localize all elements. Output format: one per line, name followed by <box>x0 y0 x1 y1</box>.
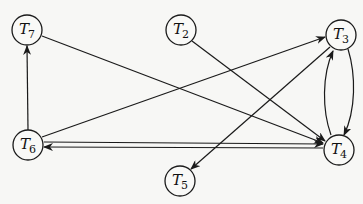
edge-t4-to-t6 <box>44 147 323 148</box>
edge-t3-to-t4 <box>344 49 354 135</box>
node-t4: T 4 <box>324 135 354 165</box>
edge-t6-to-t7 <box>27 46 28 130</box>
node-t3: T 3 <box>326 20 356 50</box>
svg-text:4: 4 <box>340 148 347 161</box>
node-t7: T 7 <box>12 15 42 45</box>
svg-text:2: 2 <box>182 28 189 41</box>
svg-text:3: 3 <box>342 33 349 46</box>
edges <box>27 36 354 169</box>
node-t6: T 6 <box>13 130 43 160</box>
svg-text:6: 6 <box>29 143 36 156</box>
edge-t4-to-t3 <box>324 51 333 135</box>
edge-t2-to-t4 <box>192 41 325 141</box>
edge-t3-to-t5 <box>191 47 330 169</box>
node-t5: T 5 <box>165 166 195 196</box>
svg-text:7: 7 <box>28 28 35 41</box>
edge-t6-to-t4 <box>44 142 323 144</box>
node-t2: T 2 <box>166 15 196 45</box>
task-dependency-graph: T 7 T 2 T 3 T 6 T 4 T 5 <box>0 0 363 204</box>
svg-text:5: 5 <box>181 179 188 192</box>
